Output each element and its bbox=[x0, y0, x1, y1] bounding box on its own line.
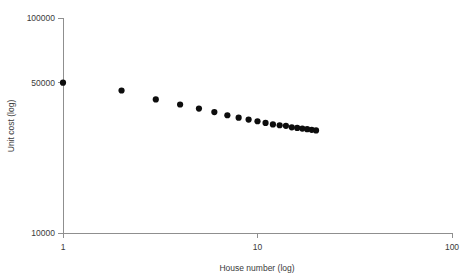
data-point bbox=[289, 124, 295, 130]
x-tick-label: 10 bbox=[253, 242, 263, 252]
data-point bbox=[118, 87, 124, 93]
x-tick-label: 100 bbox=[445, 242, 459, 252]
chart-container: 1000050000100000 110100 House number (lo… bbox=[0, 0, 466, 279]
data-point bbox=[262, 120, 268, 126]
data-point bbox=[196, 105, 202, 111]
y-tick-label: 100000 bbox=[27, 13, 56, 23]
y-axis-ticks: 1000050000100000 bbox=[27, 13, 63, 238]
data-point bbox=[60, 80, 66, 86]
data-point bbox=[270, 121, 276, 127]
x-tick-label: 1 bbox=[61, 242, 66, 252]
data-point bbox=[246, 116, 252, 122]
scatter-plot-svg: 1000050000100000 110100 House number (lo… bbox=[0, 0, 466, 279]
data-point bbox=[224, 112, 230, 118]
data-point-layer bbox=[60, 80, 319, 134]
data-point bbox=[236, 115, 242, 121]
data-point bbox=[153, 96, 159, 102]
data-point bbox=[283, 123, 289, 129]
y-tick-label: 10000 bbox=[31, 228, 55, 238]
data-point bbox=[313, 127, 319, 133]
x-axis-title: House number (log) bbox=[219, 263, 294, 273]
data-point bbox=[277, 122, 283, 128]
y-axis-title: Unit cost (log) bbox=[6, 100, 16, 153]
x-axis-ticks: 110100 bbox=[61, 233, 460, 252]
y-tick-label: 50000 bbox=[31, 78, 55, 88]
data-point bbox=[211, 109, 217, 115]
data-point bbox=[177, 101, 183, 107]
data-point bbox=[254, 118, 260, 124]
